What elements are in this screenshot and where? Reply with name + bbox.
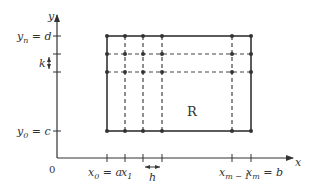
x-axis-label: x [295, 156, 302, 169]
grid-partition-diagram: y x 0 R k h yn = d y0 = c x0 = a x1 xm −… [0, 0, 309, 189]
x1-label: x1 [121, 166, 132, 181]
origin-label: 0 [49, 164, 55, 175]
h-label: h [149, 171, 156, 184]
xm-label: xm = b [246, 166, 283, 181]
region-rectangle [107, 36, 251, 131]
region-label: R [187, 104, 198, 119]
grid-points [105, 34, 253, 133]
y-axis-label: y [47, 10, 55, 23]
yn-label: yn = d [16, 30, 52, 45]
grid-lines [107, 36, 251, 131]
x0-label: x0 = a [88, 166, 122, 181]
diagram-canvas: y x 0 R k h yn = d y0 = c x0 = a x1 xm −… [0, 0, 309, 189]
y0-label: y0 = c [16, 125, 51, 140]
k-label: k [39, 57, 46, 70]
